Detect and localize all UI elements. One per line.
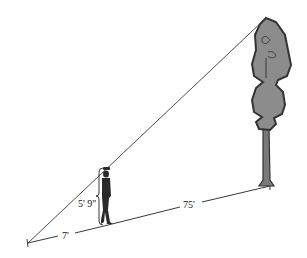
tree-crown: [252, 18, 291, 130]
person-figure: [101, 167, 113, 224]
tree-trunk: [259, 128, 274, 186]
tree-distance-label: 75': [183, 199, 195, 210]
tree-figure: [252, 18, 291, 186]
shadow-distance-label: 7': [62, 230, 69, 241]
sight-line: [28, 18, 266, 243]
similar-triangles-diagram: 5' 9" 7' 75': [0, 0, 307, 258]
person-height-label: 5' 9": [78, 198, 96, 209]
